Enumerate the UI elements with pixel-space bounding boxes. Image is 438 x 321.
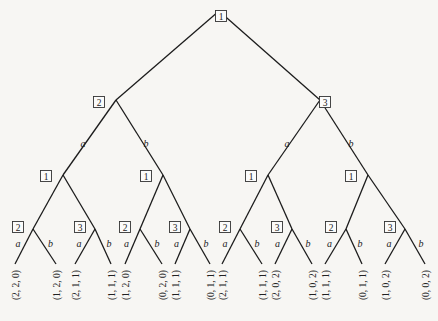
player-number: 3 (78, 223, 83, 233)
player-number: 2 (16, 223, 21, 233)
tree-edge (240, 175, 268, 229)
tree-edge (320, 100, 368, 175)
payoff-vector: (2, 2, 0) (11, 270, 22, 300)
player-number: 1 (44, 172, 49, 182)
action-label-b: b (107, 238, 112, 249)
action-label-a: a (174, 238, 179, 249)
player-2-node: 2 (220, 222, 231, 233)
action-label-b: b (306, 238, 311, 249)
tree-edge (33, 175, 63, 229)
player-number: 1 (144, 172, 149, 182)
tree-edges: abab (33, 11, 405, 229)
tree-edge (140, 175, 163, 229)
player-3-node: 3 (170, 222, 181, 233)
player-number: 3 (323, 98, 328, 108)
action-label-a: a (285, 138, 290, 149)
action-label-b: b (349, 138, 354, 149)
action-label-b: b (48, 238, 53, 249)
tree-edge (116, 100, 163, 175)
action-label-b: b (204, 238, 209, 249)
payoff-vector: (1, 1, 1) (321, 270, 332, 300)
tree-edge (116, 11, 219, 100)
game-tree-canvas: abab 123111123232323 a(2, 2, 0)b(1, 2, 0… (0, 0, 438, 321)
payoff-vector: (2, 1, 1) (71, 270, 82, 300)
payoff-vector: (1, 0, 2) (381, 270, 392, 300)
player-number: 2 (97, 98, 102, 108)
player-3-node: 3 (385, 222, 396, 233)
payoff-vector: (1, 0, 2) (308, 270, 319, 300)
action-label-b: b (155, 238, 160, 249)
payoff-vector: (0, 1, 1) (358, 270, 369, 300)
decision-nodes: 123111123232323 (13, 11, 396, 233)
action-label-a: a (387, 238, 392, 249)
payoff-vector: (0, 0, 2) (421, 270, 432, 300)
player-number: 1 (249, 172, 254, 182)
tree-edge (63, 100, 116, 175)
player-2-node: 2 (120, 222, 131, 233)
player-1-node: 1 (216, 11, 227, 22)
tree-edge (268, 100, 320, 175)
action-label-b: b (358, 238, 363, 249)
action-label-a: a (81, 138, 86, 149)
player-3-node: 3 (75, 222, 86, 233)
player-1-node: 1 (141, 171, 152, 182)
tree-edge (63, 175, 95, 229)
payoff-vector: (0, 1, 1) (206, 270, 217, 300)
tree-edge (163, 175, 190, 229)
payoff-vector: (2, 0, 2) (271, 270, 282, 300)
payoff-vector: (1, 2, 0) (121, 270, 132, 300)
game-tree-diagram: abab 123111123232323 a(2, 2, 0)b(1, 2, 0… (0, 0, 438, 321)
tree-edge (346, 175, 368, 229)
player-number: 3 (388, 223, 393, 233)
player-number: 2 (223, 223, 228, 233)
action-label-a: a (327, 238, 332, 249)
player-3-node: 3 (272, 222, 283, 233)
payoff-vector: (1, 2, 0) (52, 270, 63, 300)
action-label-a: a (223, 238, 228, 249)
action-label-a: a (16, 238, 21, 249)
player-number: 2 (123, 223, 128, 233)
player-1-node: 1 (41, 171, 52, 182)
player-1-node: 1 (246, 171, 257, 182)
player-3-node: 3 (320, 97, 331, 108)
payoff-vector: (2, 1, 1) (218, 270, 229, 300)
terminal-payoffs: a(2, 2, 0)b(1, 2, 0)a(2, 1, 1)b(1, 1, 1)… (11, 229, 432, 300)
payoff-vector: (1, 1, 1) (171, 270, 182, 300)
player-2-node: 2 (94, 97, 105, 108)
player-number: 3 (275, 223, 280, 233)
player-number: 3 (173, 223, 178, 233)
tree-edge (268, 175, 292, 229)
player-2-node: 2 (326, 222, 337, 233)
player-1-node: 1 (346, 171, 357, 182)
player-number: 1 (349, 172, 354, 182)
tree-edge (219, 11, 320, 100)
action-label-b: b (255, 238, 260, 249)
player-number: 1 (219, 12, 224, 22)
action-label-b: b (419, 238, 424, 249)
action-label-a: a (275, 238, 280, 249)
action-label-b: b (144, 138, 149, 149)
action-label-a: a (124, 238, 129, 249)
payoff-vector: (1, 1, 1) (107, 270, 118, 300)
player-2-node: 2 (13, 222, 24, 233)
payoff-vector: (0, 2, 0) (158, 270, 169, 300)
action-label-a: a (77, 238, 82, 249)
payoff-vector: (1, 1, 1) (258, 270, 269, 300)
tree-edge (368, 175, 405, 229)
player-number: 2 (329, 223, 334, 233)
